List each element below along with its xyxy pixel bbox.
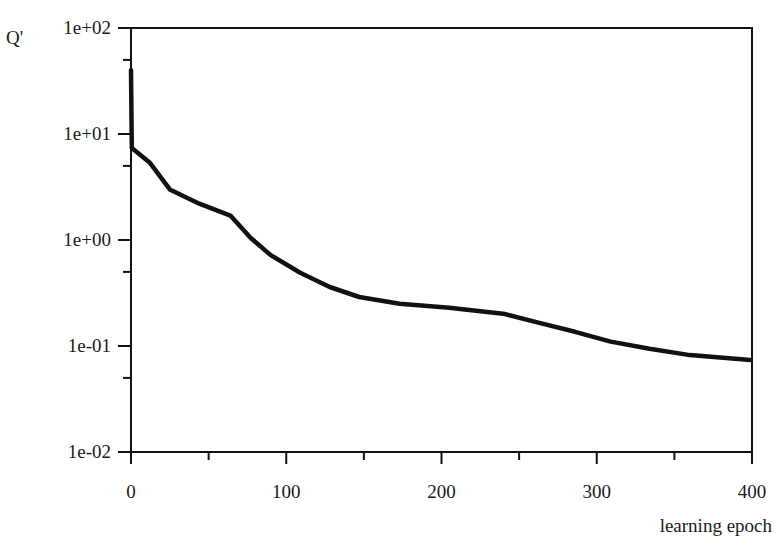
x-tick-label: 0 xyxy=(126,481,136,502)
x-tick-label: 100 xyxy=(272,481,301,502)
y-tick-label: 1e+02 xyxy=(63,17,111,38)
series-line xyxy=(131,70,750,360)
y-axis-label: Q' xyxy=(6,27,23,48)
y-tick-label: 1e-02 xyxy=(68,441,111,462)
loss-chart: 1e+021e+011e+001e-011e-02 0100200300400 … xyxy=(0,0,781,558)
y-axis-ticks: 1e+021e+011e+001e-011e-02 xyxy=(63,17,131,462)
axes xyxy=(131,28,752,452)
plot-frame xyxy=(131,28,752,452)
x-axis-label: learning epoch xyxy=(660,515,773,536)
x-tick-label: 300 xyxy=(583,481,612,502)
x-axis-ticks: 0100200300400 xyxy=(126,452,766,502)
y-tick-label: 1e-01 xyxy=(68,335,111,356)
y-tick-label: 1e+00 xyxy=(63,229,111,250)
x-tick-label: 200 xyxy=(427,481,456,502)
x-tick-label: 400 xyxy=(738,481,767,502)
y-tick-label: 1e+01 xyxy=(63,123,111,144)
